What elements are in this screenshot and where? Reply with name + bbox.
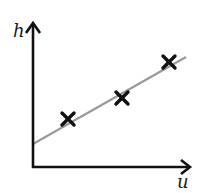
y-axis-label: h <box>13 20 25 41</box>
fit-line <box>33 57 186 144</box>
data-markers <box>62 56 175 125</box>
x-axis-label: u <box>177 171 189 192</box>
y-axis <box>26 23 40 168</box>
x-axis <box>32 160 190 174</box>
diagram: h u <box>0 0 202 193</box>
